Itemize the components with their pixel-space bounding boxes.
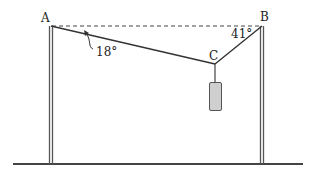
angle-label-a: 18° xyxy=(96,45,117,59)
hanging-weight xyxy=(210,83,222,111)
pole-b xyxy=(261,26,264,164)
angle-pointer-arrow xyxy=(87,35,93,49)
rope-ac xyxy=(51,26,215,64)
angle-label-b: 41° xyxy=(231,27,252,41)
tension-diagram: A B C 18° 41° xyxy=(0,0,314,171)
label-a: A xyxy=(40,11,50,25)
pole-a xyxy=(50,26,53,164)
label-c: C xyxy=(209,49,218,63)
label-b: B xyxy=(260,10,269,24)
